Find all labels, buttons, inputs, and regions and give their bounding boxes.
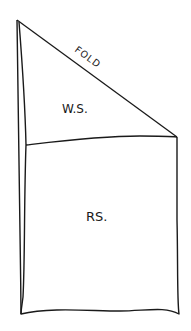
fold-diagram: FOLD W.S. RS. bbox=[0, 0, 191, 331]
right-side-label: RS. bbox=[86, 209, 107, 224]
flap-back-edge bbox=[17, 20, 21, 314]
flap-bottom-edge bbox=[26, 136, 177, 145]
fold-line bbox=[17, 20, 177, 137]
flap-left-edge bbox=[19, 22, 26, 145]
fold-label: FOLD bbox=[73, 44, 103, 70]
diagram-drawing: FOLD W.S. RS. bbox=[0, 0, 191, 331]
wrong-side-label: W.S. bbox=[62, 102, 88, 116]
right-side-panel-outline bbox=[21, 137, 179, 314]
